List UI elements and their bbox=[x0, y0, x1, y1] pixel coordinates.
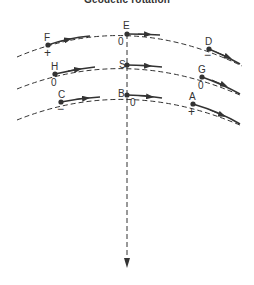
label-a: A bbox=[189, 91, 196, 102]
orbit-outer-segment-f bbox=[48, 36, 90, 45]
sign-g: 0 bbox=[198, 80, 204, 91]
sign-b: 0 bbox=[130, 97, 136, 108]
orbit-outer-segment-d bbox=[209, 49, 240, 64]
sign-a: + bbox=[188, 105, 195, 119]
label-d: D bbox=[205, 36, 212, 47]
label-e: E bbox=[123, 20, 130, 31]
orbit-middle-segment-g bbox=[202, 77, 240, 94]
label-g: G bbox=[198, 64, 206, 75]
arrow-inner-a bbox=[210, 110, 224, 116]
sign-f: + bbox=[44, 46, 51, 60]
orbit-diagram: F E D H S G C B A + 0 − 0 0 − 0 + bbox=[0, 0, 254, 285]
arrow-outer-e bbox=[138, 34, 150, 35]
label-b: B bbox=[118, 88, 125, 99]
orbit-inner-segment-a bbox=[193, 104, 240, 124]
point-b bbox=[124, 92, 129, 97]
orbit-inner-segment-c bbox=[61, 97, 100, 102]
arrow-middle-s bbox=[138, 66, 150, 67]
sign-d: − bbox=[204, 48, 211, 62]
sign-c: − bbox=[57, 102, 64, 116]
label-c: C bbox=[58, 89, 65, 100]
point-h bbox=[52, 71, 57, 76]
label-h: H bbox=[51, 61, 58, 72]
sign-e: 0 bbox=[118, 36, 124, 47]
vertical-axis-arrowhead bbox=[124, 258, 130, 268]
point-e bbox=[124, 31, 129, 36]
label-s: S bbox=[119, 59, 126, 70]
sign-h: 0 bbox=[51, 77, 57, 88]
label-f: F bbox=[44, 32, 50, 43]
point-g bbox=[199, 74, 204, 79]
